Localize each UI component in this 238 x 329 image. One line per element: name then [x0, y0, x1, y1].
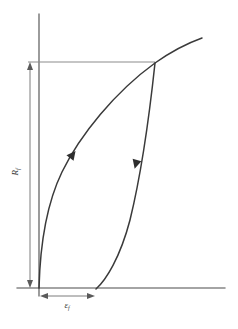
vertical-dimension-label: Rf: [10, 167, 21, 177]
horizontal-dimension-subscript: f: [68, 305, 71, 311]
figure-container: Rf εf: [0, 0, 238, 329]
vertical-dimension-arrow-top-icon: [27, 62, 33, 70]
horizontal-dimension-arrow-left-icon: [40, 293, 48, 299]
vertical-dimension-arrow-bottom-icon: [27, 280, 33, 288]
horizontal-dimension-label: εf: [64, 300, 71, 311]
horizontal-dimension-arrow-right-icon: [87, 293, 95, 299]
unloading-curve: [96, 63, 155, 289]
vertical-dimension-subscript: f: [15, 167, 21, 170]
unloading-direction-arrow-icon: [130, 159, 141, 170]
stress-strain-diagram: Rf εf: [0, 0, 238, 329]
